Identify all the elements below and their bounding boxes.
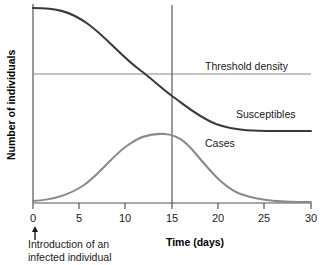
x-tick-label-15: 15 [166,212,178,224]
cases-label: Cases [205,137,235,149]
susceptibles-label: Susceptibles [236,108,296,120]
y-axis-title: Number of individuals [5,50,17,160]
introduction-annotation-line2: infected individual [28,251,111,263]
x-tick-label-20: 20 [212,212,224,224]
x-tick-label-5: 5 [76,212,82,224]
x-tick-label-10: 10 [119,212,131,224]
introduction-annotation-line1: Introduction of an [28,238,109,250]
x-tick-label-30: 30 [305,212,317,224]
x-tick-label-25: 25 [258,212,270,224]
x-tick-label-0: 0 [30,212,36,224]
epidemic-curve-figure: Number of individuals 0 5 10 15 20 25 30… [0,0,335,265]
chart-canvas: Number of individuals 0 5 10 15 20 25 30… [0,0,335,265]
x-axis-title: Time (days) [166,236,224,248]
threshold-density-label: Threshold density [205,60,289,72]
x-tick-marks [33,203,311,209]
